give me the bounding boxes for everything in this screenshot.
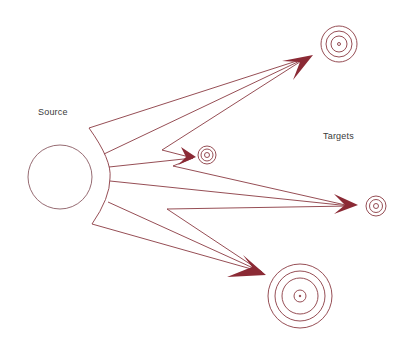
target-bottom bbox=[268, 264, 332, 328]
source-label: Source bbox=[38, 107, 68, 117]
arrow-to-right-target bbox=[110, 166, 358, 214]
diagram-canvas bbox=[0, 0, 410, 345]
source-circle bbox=[28, 145, 92, 209]
arrow-to-bottom-target bbox=[92, 202, 266, 277]
targets-label: Targets bbox=[323, 131, 354, 141]
target-middle bbox=[198, 146, 216, 164]
arrowhead-icon bbox=[334, 194, 358, 214]
target-top bbox=[321, 26, 357, 62]
arrow-to-middle-target bbox=[109, 147, 196, 167]
target-right bbox=[366, 196, 386, 216]
arrowhead-icon bbox=[178, 147, 196, 165]
arrow-to-top-target bbox=[89, 55, 313, 154]
